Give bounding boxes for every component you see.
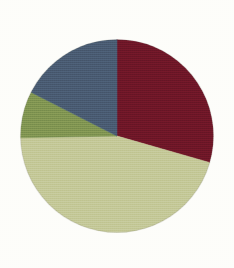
screenshot-canvas: Dark Red — 29.4%Sage Green — 45.3%Olive … xyxy=(0,0,234,268)
pie-chart-figure: Dark Red — 29.4%Sage Green — 45.3%Olive … xyxy=(0,0,234,268)
pie-slice-group: Dark Red — 29.4%Sage Green — 45.3%Olive … xyxy=(19,38,216,235)
pie-chart-svg: Dark Red — 29.4%Sage Green — 45.3%Olive … xyxy=(0,0,234,268)
